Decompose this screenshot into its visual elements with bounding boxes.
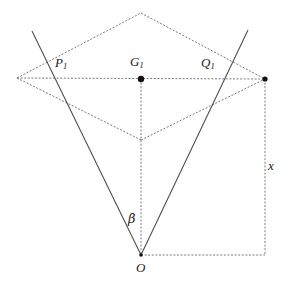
label-beta: β (128, 212, 136, 225)
right-vertex-dot (262, 76, 267, 81)
label-p1-subscript: 1 (63, 61, 67, 71)
centroid-dot (138, 76, 144, 82)
left-ray-from-origin (32, 31, 141, 255)
lower-left-edge (17, 78, 141, 140)
lower-right-edge (141, 79, 265, 140)
dotted-construction-lines (17, 13, 265, 255)
label-q1: Q1 (201, 56, 215, 71)
label-p1: P1 (55, 56, 67, 71)
label-q1-subscript: 1 (210, 61, 214, 71)
label-g1: G1 (130, 55, 144, 70)
label-g1-subscript: 1 (139, 60, 143, 70)
right-ray-from-origin (141, 30, 248, 255)
label-g1-base: G (130, 54, 139, 69)
label-p1-base: P (55, 55, 63, 70)
label-q1-base: Q (201, 55, 210, 70)
geometry-figure: P1 G1 Q1 β O x (0, 0, 296, 283)
figure-canvas (0, 0, 296, 283)
label-o: O (136, 261, 145, 274)
point-markers (138, 76, 268, 257)
label-x: x (268, 159, 274, 172)
upper-left-edge (17, 13, 141, 78)
origin-dot (139, 253, 143, 257)
